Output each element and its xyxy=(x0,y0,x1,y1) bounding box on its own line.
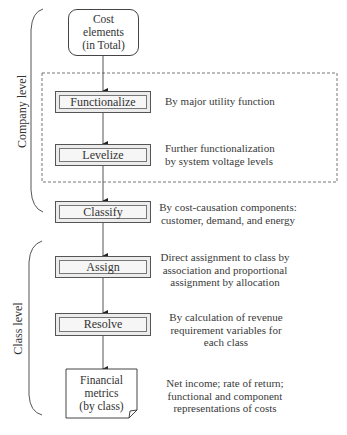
class-level-label: Class level xyxy=(11,294,26,364)
cost-elements-line-2: elements xyxy=(83,26,124,39)
company-level-bracket xyxy=(31,9,43,212)
classify-description: By cost-causation components: customer, … xyxy=(158,201,298,226)
resolve-description: By calculation of revenue requirement va… xyxy=(168,311,284,349)
classify-step: Classify xyxy=(55,201,151,223)
levelize-step: Levelize xyxy=(55,144,151,166)
functionalize-step: Functionalize xyxy=(55,91,151,113)
cost-elements-node: Cost elements (in Total) xyxy=(68,9,139,56)
functionalize-description: By major utility function xyxy=(165,95,275,108)
cost-elements-line-3: (in Total) xyxy=(82,39,125,52)
resolve-label: Resolve xyxy=(84,317,123,332)
levelize-label: Levelize xyxy=(82,148,123,163)
levelize-description: Further functionalization by system volt… xyxy=(165,142,273,167)
resolve-step: Resolve xyxy=(55,313,151,336)
financial-metrics-description: Net income; rate of return; functional a… xyxy=(166,377,284,415)
class-level-bracket xyxy=(29,241,42,415)
classify-label: Classify xyxy=(83,205,122,220)
assign-description: Direct assignment to class by associatio… xyxy=(158,251,292,289)
company-level-label: Company level xyxy=(15,67,30,157)
functionalize-label: Functionalize xyxy=(70,95,135,110)
financial-metrics-node: Financial metrics (by class) xyxy=(66,371,137,415)
cost-elements-line-1: Cost xyxy=(93,13,114,26)
assign-step: Assign xyxy=(55,256,151,278)
assign-label: Assign xyxy=(86,260,119,275)
